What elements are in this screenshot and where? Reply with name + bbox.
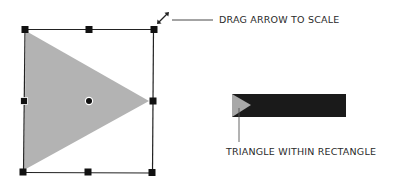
handle-bottom-left[interactable] [20,169,27,176]
handle-middle-right[interactable] [150,98,157,105]
handle-middle-left[interactable] [21,98,28,105]
handle-top-middle[interactable] [86,26,93,33]
diagonal-scale-arrow-icon[interactable] [157,12,169,24]
handle-bottom-right[interactable] [149,169,156,176]
center-point-icon[interactable] [85,97,93,105]
handle-top-right[interactable] [151,26,158,33]
handle-bottom-middle[interactable] [85,169,92,176]
rectangle-with-triangle [232,94,346,117]
handle-top-left[interactable] [22,26,29,33]
diagram-canvas [0,0,401,186]
inner-callout-label: TRIANGLE WITHIN RECTANGLE [226,146,376,157]
selected-triangle-shape[interactable] [20,26,158,176]
scale-callout-label: DRAG ARROW TO SCALE [219,14,339,25]
